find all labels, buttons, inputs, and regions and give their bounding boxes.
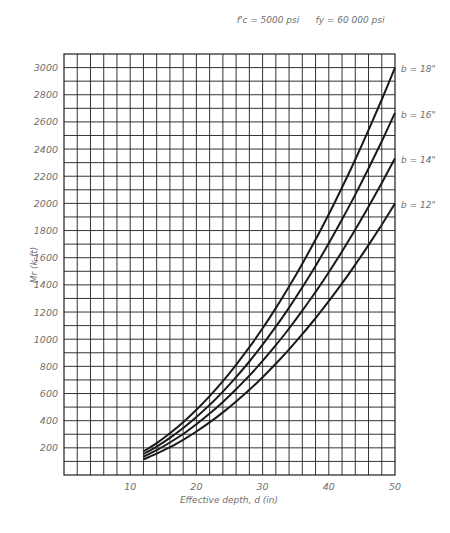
header-annotations: f'c = 5000 psi fy = 60 000 psi (237, 15, 385, 25)
chart: f'c = 5000 psi fy = 60 000 psi 200400600… (0, 0, 450, 533)
y-tick-label: 400 (40, 415, 58, 426)
x-tick-label: 10 (124, 481, 136, 492)
y-axis-label: Mr (k-ft) (29, 247, 39, 284)
x-axis-ticks: 1020304050 (124, 481, 401, 492)
y-tick-label: 2200 (34, 171, 58, 182)
series-label-b-14: b = 14" (401, 155, 436, 165)
y-tick-label: 1800 (34, 225, 58, 236)
series-label-b-16: b = 16" (401, 110, 436, 120)
y-tick-label: 2400 (34, 144, 58, 155)
y-tick-label: 1000 (34, 334, 58, 345)
curve-b-16 (143, 113, 395, 454)
fc-annotation: f'c = 5000 psi (237, 15, 300, 25)
y-tick-label: 1200 (34, 307, 58, 318)
y-tick-label: 600 (40, 388, 58, 399)
x-tick-label: 40 (323, 481, 335, 492)
y-tick-label: 2000 (34, 198, 58, 209)
y-tick-label: 2600 (34, 116, 58, 127)
y-tick-label: 3000 (34, 62, 58, 73)
x-tick-label: 50 (389, 481, 401, 492)
x-tick-label: 30 (257, 481, 269, 492)
y-tick-label: 200 (40, 442, 58, 453)
x-tick-label: 20 (190, 481, 202, 492)
series-labels: b = 18"b = 16"b = 14"b = 12" (401, 64, 436, 210)
x-axis-label: Effective depth, d (in) (180, 495, 278, 505)
y-tick-label: 800 (40, 361, 58, 372)
grid (64, 54, 395, 475)
y-tick-label: 2800 (34, 89, 58, 100)
series-label-b-12: b = 12" (401, 200, 436, 210)
series-label-b-18: b = 18" (401, 64, 436, 74)
plot-frame (64, 54, 395, 475)
fy-annotation: fy = 60 000 psi (315, 15, 385, 25)
curves (143, 68, 395, 460)
